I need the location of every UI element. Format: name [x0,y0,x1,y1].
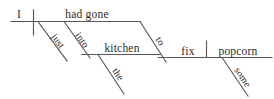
label-the: the [110,66,126,83]
sentence-diagram: I had gone just into kitchen the to fix … [0,0,274,99]
label-subject: I [17,8,21,20]
label-into: into [73,30,91,50]
label-fix: fix [181,45,194,57]
label-just: just [49,31,67,51]
label-verb: had gone [65,8,108,21]
label-kitchen: kitchen [104,42,139,54]
diagram-canvas: I had gone just into kitchen the to fix … [0,0,274,99]
label-popcorn: popcorn [218,45,257,58]
